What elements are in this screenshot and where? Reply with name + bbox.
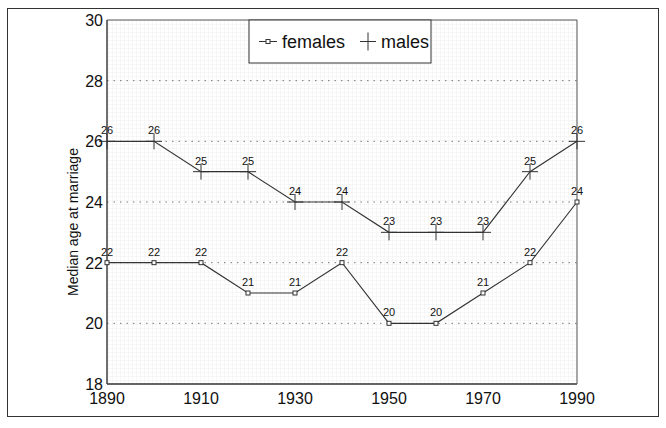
female-point-marker [434, 321, 438, 325]
data-label: 25 [242, 155, 254, 167]
female-point-marker [105, 261, 109, 265]
data-label: 26 [148, 124, 160, 136]
female-point-marker [293, 291, 297, 295]
data-label: 24 [336, 185, 348, 197]
data-label: 25 [524, 155, 536, 167]
data-label: 22 [195, 246, 207, 258]
female-point-marker [575, 200, 579, 204]
data-label: 24 [571, 185, 583, 197]
y-tick-label: 20 [85, 315, 103, 332]
female-point-marker [246, 291, 250, 295]
female-point-marker [528, 261, 532, 265]
data-label: 23 [477, 215, 489, 227]
x-tick-label: 1950 [371, 390, 407, 407]
female-point-marker [199, 261, 203, 265]
data-label: 21 [242, 276, 254, 288]
data-label: 24 [289, 185, 301, 197]
female-point-marker [481, 291, 485, 295]
female-point-marker [152, 261, 156, 265]
x-tick-label: 1990 [559, 390, 595, 407]
data-label: 20 [383, 306, 395, 318]
legend-label-females: females [282, 32, 345, 52]
legend: femalesmales [249, 20, 431, 63]
line-chart: 18202224262830 189019101930195019701990 … [0, 0, 666, 428]
legend-females-marker [266, 40, 270, 44]
data-label: 21 [477, 276, 489, 288]
x-tick-label: 1910 [183, 390, 219, 407]
data-label: 22 [524, 246, 536, 258]
female-point-marker [387, 321, 391, 325]
x-tick-label: 1970 [465, 390, 501, 407]
y-tick-label: 24 [85, 194, 103, 211]
data-label: 22 [336, 246, 348, 258]
female-point-marker [340, 261, 344, 265]
data-label: 21 [289, 276, 301, 288]
data-label: 26 [101, 124, 113, 136]
data-label: 22 [101, 246, 113, 258]
data-label: 23 [430, 215, 442, 227]
data-label: 20 [430, 306, 442, 318]
legend-label-males: males [381, 32, 429, 52]
x-axis-ticks: 189019101930195019701990 [89, 390, 595, 407]
y-tick-label: 28 [85, 73, 103, 90]
data-label: 22 [148, 246, 160, 258]
data-label: 26 [571, 124, 583, 136]
y-axis-ticks: 18202224262830 [85, 12, 103, 393]
data-label: 23 [383, 215, 395, 227]
y-axis-label: Median age at marriage [65, 148, 81, 296]
x-tick-label: 1890 [89, 390, 125, 407]
y-tick-label: 30 [85, 12, 103, 29]
x-tick-label: 1930 [277, 390, 313, 407]
data-label: 25 [195, 155, 207, 167]
